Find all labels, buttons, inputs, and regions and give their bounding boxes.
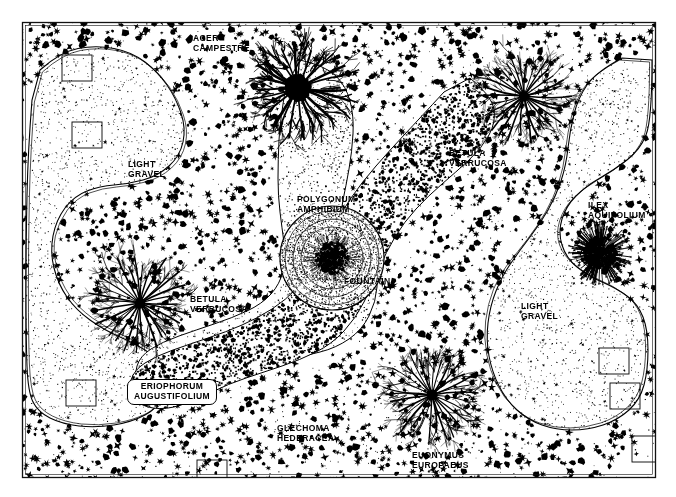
garden-plan-canvas <box>0 0 676 497</box>
garden-plan: ACER CAMPESTRELIGHT GRAVELPOLYGONUM AMPH… <box>0 0 676 497</box>
